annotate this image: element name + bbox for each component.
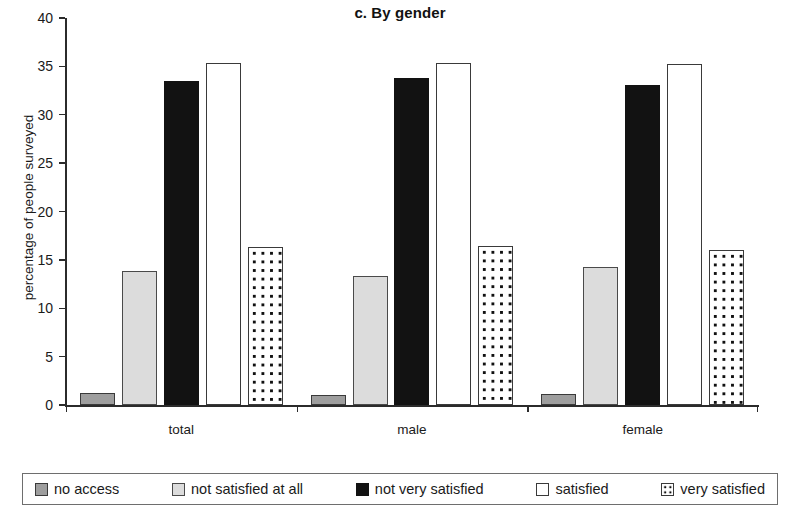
legend-item-label: no access	[54, 482, 119, 497]
y-tick-label: 25	[37, 155, 53, 171]
bar	[667, 64, 702, 405]
bar	[625, 85, 660, 405]
legend-item: not satisfied at all	[172, 482, 303, 497]
y-tick-label: 40	[37, 10, 53, 26]
legend-item: very satisfied	[661, 482, 765, 497]
swatch-very-satisfied-icon	[661, 483, 674, 496]
y-tick-label: 20	[37, 204, 53, 220]
x-tick-mark	[527, 406, 528, 412]
bar	[353, 276, 388, 405]
x-tick-mark	[66, 406, 67, 412]
bar	[709, 250, 744, 405]
y-tick-label: 0	[45, 397, 53, 413]
legend-item-label: satisfied	[555, 482, 608, 497]
y-tick-mark	[59, 308, 65, 309]
bar	[122, 271, 157, 405]
bar-group	[297, 18, 528, 405]
bar-group	[527, 18, 758, 405]
swatch-satisfied-icon	[536, 483, 549, 496]
bar	[436, 63, 471, 405]
x-tick-mark	[297, 406, 298, 412]
bar	[583, 267, 618, 405]
legend-item-label: not very satisfied	[375, 482, 484, 497]
plot-area: 0510152025303540 totalmalefemale	[66, 18, 758, 405]
y-tick-label: 15	[37, 252, 53, 268]
y-tick-mark	[59, 17, 65, 18]
bar	[311, 395, 346, 405]
y-tick-mark	[59, 66, 65, 67]
x-axis-line	[65, 405, 759, 407]
y-tick-label: 30	[37, 107, 53, 123]
y-tick-label: 35	[37, 58, 53, 74]
bar	[206, 63, 241, 405]
bar-group	[66, 18, 297, 405]
bar-chart-figure: c. By gender percentage of people survey…	[0, 0, 800, 511]
x-category-label: female	[527, 422, 758, 437]
x-tick-mark	[757, 406, 758, 412]
y-tick-mark	[59, 404, 65, 405]
legend-item-label: not satisfied at all	[191, 482, 303, 497]
legend-item: not very satisfied	[356, 482, 484, 497]
y-tick-mark	[59, 356, 65, 357]
bar	[80, 393, 115, 405]
bar	[478, 246, 513, 405]
swatch-not-very-satisfied-icon	[356, 483, 369, 496]
bar	[164, 81, 199, 405]
legend-item-label: very satisfied	[680, 482, 765, 497]
y-tick-mark	[59, 162, 65, 163]
bar	[394, 78, 429, 405]
chart-legend: no accessnot satisfied at allnot very sa…	[22, 473, 778, 505]
bar	[541, 394, 576, 405]
bar	[248, 247, 283, 405]
x-category-label: total	[66, 422, 297, 437]
y-tick-mark	[59, 211, 65, 212]
y-axis-label: percentage of people surveyed	[21, 58, 36, 358]
legend-item: no access	[35, 482, 119, 497]
swatch-no-access-icon	[35, 483, 48, 496]
swatch-not-satisfied-at-all-icon	[172, 483, 185, 496]
x-category-label: male	[297, 422, 528, 437]
y-tick-mark	[59, 259, 65, 260]
y-tick-label: 5	[45, 349, 53, 365]
legend-item: satisfied	[536, 482, 608, 497]
y-tick-label: 10	[37, 300, 53, 316]
y-tick-mark	[59, 114, 65, 115]
